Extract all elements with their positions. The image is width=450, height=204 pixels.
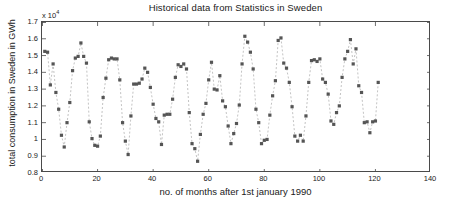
data-point-marker [285, 67, 288, 70]
data-point-marker [268, 114, 271, 117]
data-point-marker [135, 82, 138, 85]
data-point-marker [132, 82, 135, 85]
data-point-marker [338, 104, 341, 107]
data-point-marker [196, 160, 199, 163]
data-point-marker [265, 138, 268, 141]
data-point-marker [235, 122, 238, 125]
data-point-marker [99, 134, 102, 137]
data-point-marker [96, 145, 99, 148]
data-point-marker [238, 103, 241, 106]
data-point-marker [199, 133, 202, 136]
chart-figure: Historical data from Statistics in Swede… [0, 0, 450, 204]
data-point-marker [190, 142, 193, 145]
y-tick-label: 0.9 [28, 151, 38, 160]
y-axis-tick-labels: 0.80.911.11.21.31.41.51.61.7 [0, 21, 38, 172]
x-tick-label: 20 [92, 174, 100, 183]
x-tick-label: 100 [313, 174, 326, 183]
data-point-marker [57, 108, 60, 111]
data-point-marker [204, 102, 207, 105]
data-point-marker [146, 71, 149, 74]
data-point-marker [329, 119, 332, 122]
data-point-marker [327, 93, 330, 96]
data-point-marker [182, 62, 185, 65]
data-point-marker [357, 84, 360, 87]
data-point-marker [165, 113, 168, 116]
data-point-marker [254, 108, 257, 111]
y-tick-label: 1.4 [28, 67, 38, 76]
x-tick-label: 60 [204, 174, 212, 183]
data-point-marker [82, 55, 85, 58]
data-point-marker [302, 140, 305, 143]
data-point-marker [368, 131, 371, 134]
x-axis-tick-labels: 020406080100120140 [0, 174, 450, 186]
data-point-marker [288, 81, 291, 84]
y-tick-label: 1 [34, 134, 38, 143]
data-point-marker [46, 51, 49, 54]
y-axis-tick-marks [42, 23, 430, 173]
data-point-marker [140, 77, 143, 80]
data-point-marker [90, 137, 93, 140]
data-point-marker [121, 121, 124, 124]
data-point-marker [174, 76, 177, 79]
data-point-marker [129, 114, 132, 117]
data-point-marker [71, 69, 74, 72]
y-axis-label: total consumption in Sweden in GWh [7, 18, 17, 168]
data-point-marker [77, 55, 80, 58]
data-point-marker [138, 82, 141, 85]
data-point-marker [215, 88, 218, 91]
data-point-marker [299, 134, 302, 137]
data-point-marker [52, 62, 55, 65]
data-point-marker [290, 105, 293, 108]
data-point-marker [43, 50, 46, 53]
data-point-marker [110, 56, 113, 59]
plot-area [41, 21, 430, 172]
y-tick-label: 1.2 [28, 100, 38, 109]
data-point-marker [154, 117, 157, 120]
data-point-marker [346, 50, 349, 53]
data-point-marker [107, 58, 110, 61]
data-point-marker [282, 62, 285, 65]
x-axis-tick-marks [43, 22, 431, 172]
data-point-marker [60, 134, 63, 137]
data-point-marker [240, 62, 243, 65]
x-tick-label: 120 [368, 174, 381, 183]
data-point-marker [371, 120, 374, 123]
data-point-marker [163, 114, 166, 117]
data-point-marker [188, 111, 191, 114]
data-point-marker [277, 39, 280, 42]
data-point-marker [360, 91, 363, 94]
series-dashed-line [45, 36, 378, 161]
data-point-marker [363, 121, 366, 124]
y-tick-label: 1.1 [28, 117, 38, 126]
data-point-marker [274, 79, 277, 82]
data-point-marker [193, 147, 196, 150]
data-point-marker [335, 111, 338, 114]
data-point-marker [243, 35, 246, 38]
x-tick-label: 0 [39, 174, 43, 183]
data-point-marker [279, 36, 282, 39]
data-point-marker [296, 140, 299, 143]
data-point-marker [343, 57, 346, 60]
data-point-marker [127, 153, 130, 156]
y-tick-label: 1.5 [28, 50, 38, 59]
data-point-marker [202, 113, 205, 116]
data-point-marker [85, 62, 88, 65]
data-point-marker [49, 83, 52, 86]
data-point-marker [263, 139, 266, 142]
data-point-marker [177, 63, 180, 66]
data-point-marker [304, 114, 307, 117]
data-point-marker [179, 65, 182, 68]
data-point-marker [227, 124, 230, 127]
data-point-marker [104, 77, 107, 80]
data-point-marker [260, 142, 263, 145]
data-point-marker [79, 41, 82, 44]
data-point-marker [210, 61, 213, 64]
data-point-marker [315, 60, 318, 63]
data-point-marker [352, 62, 355, 65]
data-point-marker [246, 41, 249, 44]
exponent-base: x 10 [42, 11, 56, 20]
data-point-marker [152, 103, 155, 106]
data-point-marker [377, 81, 380, 84]
data-point-marker [88, 120, 91, 123]
data-point-marker [118, 78, 121, 81]
